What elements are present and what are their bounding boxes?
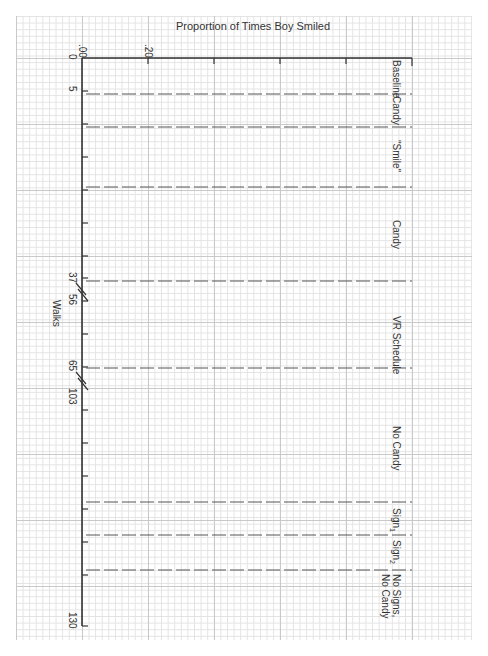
x-tick-130: 130: [67, 612, 78, 629]
phase-label-sign2: Sign2: [389, 540, 402, 564]
proportion-ticks: [148, 58, 412, 66]
phase-label-sign1: Sign1: [389, 508, 402, 532]
y-tick-20: .20: [143, 44, 154, 58]
phase-label-no-signs-no-candy: No Signs,No Candy: [380, 574, 402, 618]
x-tick-65: 65: [67, 360, 78, 371]
x-tick-37: 37: [67, 272, 78, 283]
phase-label-baseline: Baseline: [391, 60, 402, 98]
phase-label-vr-schedule: VR Schedule: [391, 316, 402, 374]
phase-label-smile: "Smile": [391, 140, 402, 172]
y-tick-00: .00: [77, 44, 88, 58]
phase-lines: [86, 94, 412, 570]
x-tick-5: 5: [67, 86, 78, 92]
walks-ticks: [82, 91, 88, 626]
phase-label-candy-2: Candy: [391, 220, 402, 249]
chart-frame: [0, 0, 488, 656]
chart-title: Proportion of Times Boy Smiled: [176, 20, 330, 32]
phase-label-no-candy: No Candy: [391, 426, 402, 470]
phase-label-candy: Candy: [391, 96, 402, 125]
x-tick-0: 0: [67, 54, 78, 60]
walks-axis-label: Walks: [51, 300, 62, 327]
x-tick-103: 103: [67, 388, 78, 405]
x-tick-56: 56: [67, 294, 78, 305]
